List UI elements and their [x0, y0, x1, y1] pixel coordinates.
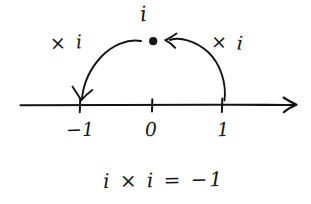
multiply-by-i-label-left: × i: [50, 32, 85, 53]
tick-label-one: 1: [217, 118, 230, 140]
point-i-label: i: [139, 4, 147, 25]
tick-label-zero: 0: [144, 118, 157, 141]
arc-i-to-neg1: [82, 40, 141, 98]
point-i-dot: [149, 37, 157, 45]
multiply-by-i-label-right: × i: [211, 32, 246, 53]
equation-text: i × i = −1: [103, 167, 225, 193]
tick-label-negative-one: −1: [66, 118, 95, 141]
